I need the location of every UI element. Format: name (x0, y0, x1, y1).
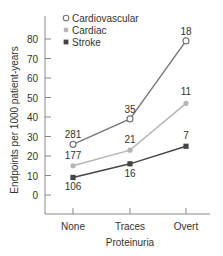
y-tick-label: 50 (27, 93, 39, 104)
y-tick-label: 30 (27, 132, 39, 143)
data-label: 281 (65, 129, 82, 140)
legend-square-icon (64, 40, 69, 45)
data-point (127, 161, 132, 166)
y-tick-label: 0 (32, 190, 38, 201)
y-axis-title: Endpoints per 1000 patient-years (9, 46, 20, 193)
series-line-cardiovascular (73, 41, 186, 144)
y-tick-label: 60 (27, 73, 39, 84)
legend-label: Stroke (72, 37, 101, 48)
x-tick-label: Traces (115, 221, 145, 232)
x-tick-label: Overt (174, 221, 199, 232)
x-axis-title: Proteinuria (106, 237, 155, 248)
data-label: 7 (183, 130, 189, 141)
data-point (70, 175, 75, 180)
data-label: 177 (65, 150, 82, 161)
data-label: 16 (124, 168, 136, 179)
data-point (70, 141, 76, 147)
data-label: 21 (124, 134, 136, 145)
x-tick-label: None (61, 221, 85, 232)
y-tick-label: 40 (27, 112, 39, 123)
data-label: 11 (181, 86, 192, 97)
legend-filled-circle-icon (64, 28, 69, 33)
y-tick-label: 70 (27, 54, 39, 65)
legend-open-circle-icon (63, 15, 69, 21)
data-point (183, 144, 188, 149)
data-point (183, 101, 188, 106)
data-label: 18 (180, 26, 192, 37)
data-point (70, 163, 75, 168)
legend-label: Cardiovascular (72, 13, 139, 24)
line-chart: 01020304050607080NoneTracesOvertProteinu… (0, 0, 223, 256)
y-tick-label: 80 (27, 34, 39, 45)
data-label: 106 (65, 181, 82, 192)
y-tick-label: 20 (27, 151, 39, 162)
legend-label: Cardiac (72, 25, 106, 36)
y-tick-label: 10 (27, 171, 39, 182)
data-label: 35 (124, 104, 136, 115)
data-point (183, 38, 189, 44)
data-point (127, 148, 132, 153)
data-point (127, 116, 133, 122)
